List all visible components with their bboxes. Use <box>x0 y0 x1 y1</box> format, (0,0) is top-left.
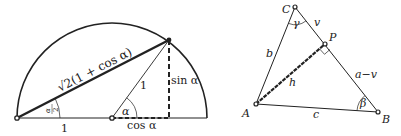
half-angle-figure: √2(1 + cos α) 1 1 sin α cos α α α 2 <box>15 23 207 135</box>
vertex-A-point <box>254 102 258 106</box>
segment-v-label: v <box>314 16 321 29</box>
alpha-label: α <box>122 105 130 118</box>
radius-label: 1 <box>140 79 147 92</box>
triangle-figure: A B C P b c v a−v h γ β <box>241 3 390 126</box>
beta-label: β <box>359 97 366 110</box>
side-c-label: c <box>313 108 319 121</box>
point-top <box>167 38 172 43</box>
foot-P-label: P <box>328 31 337 44</box>
base-left-label: 1 <box>61 122 68 135</box>
sin-label: sin α <box>171 74 199 87</box>
vertex-A-label: A <box>241 107 250 120</box>
segment-a-minus-v-label: a−v <box>355 68 378 81</box>
altitude-h-label: h <box>289 76 296 89</box>
half-angle-label: α 2 <box>44 104 60 114</box>
half-angle-num: α <box>44 108 52 113</box>
half-angle-den: 2 <box>52 108 60 112</box>
foot-P-point <box>323 42 327 46</box>
vertex-C-label: C <box>282 3 291 16</box>
vertex-B-point <box>376 110 380 114</box>
vertex-B-label: B <box>381 113 390 126</box>
side-b-label: b <box>266 47 273 60</box>
vertex-C-point <box>293 5 297 9</box>
diagram-canvas: √2(1 + cos α) 1 1 sin α cos α α α 2 A B … <box>0 0 401 136</box>
point-center <box>110 116 114 120</box>
side-b <box>256 7 295 104</box>
cos-label: cos α <box>127 119 157 132</box>
gamma-label: γ <box>293 17 300 30</box>
chord-label: √2(1 + cos α) <box>55 45 134 95</box>
point-left <box>15 116 19 120</box>
